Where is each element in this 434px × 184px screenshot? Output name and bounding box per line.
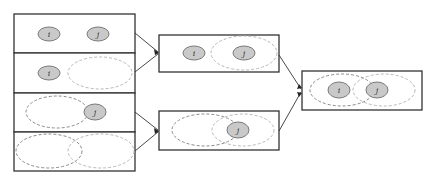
merge-box-top: i j [159,35,279,72]
node-i-label: i [338,86,341,95]
case-box-4 [14,132,135,171]
arrows-to-merge-bottom [135,112,159,151]
case-box-1: i j [14,14,135,53]
case-box-2: i [14,53,135,93]
result-box: i j [302,71,422,110]
node-i-label: i [48,69,51,78]
merge-diagram: i j i j i j [0,0,434,184]
node-i-label: i [193,49,196,58]
arrowhead-icon [154,49,159,55]
arrowhead-icon [297,92,302,97]
node-i-label: i [48,30,51,39]
arrows-to-merge-top [135,33,159,72]
case-box-3: j [14,93,135,132]
merge-box-bottom: j [159,111,279,150]
arrows-to-result [279,55,302,131]
